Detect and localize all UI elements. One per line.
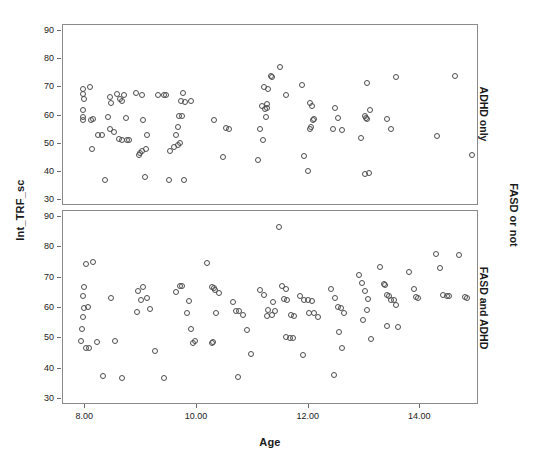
x-tick-label: 12.00 [288, 411, 328, 421]
data-point [257, 126, 263, 132]
data-point [211, 117, 217, 123]
data-point [188, 326, 194, 332]
data-point [395, 324, 401, 330]
data-point [213, 310, 219, 316]
data-point [220, 154, 226, 160]
data-point [339, 345, 345, 351]
data-point [235, 374, 241, 380]
data-point [360, 317, 366, 323]
data-point [305, 168, 311, 174]
data-point [331, 372, 337, 378]
data-point [186, 298, 192, 304]
y-tick-label: 70 [32, 272, 54, 282]
data-point [332, 295, 338, 301]
data-point [87, 84, 93, 90]
data-point [309, 298, 315, 304]
data-point [368, 336, 374, 342]
panel-strip-label-adhd-only: ADHD only [478, 26, 490, 202]
y-tick-label: 30 [32, 194, 54, 204]
y-tick-label: 60 [32, 110, 54, 120]
x-tick-mark [419, 404, 420, 408]
scatter-plot-figure: Int_TRF_sc Age ADHD only FASD and ADHD F… [0, 0, 556, 464]
data-point [364, 307, 370, 313]
data-point [384, 116, 390, 122]
data-point [152, 348, 158, 354]
data-point [166, 177, 172, 183]
x-tick-label: 8.00 [64, 411, 104, 421]
data-point [269, 74, 275, 80]
data-point [330, 126, 336, 132]
data-point [452, 73, 458, 79]
y-tick-label: 50 [32, 138, 54, 148]
y-tick-mark [57, 216, 61, 217]
y-tick-label: 80 [32, 241, 54, 251]
data-point [261, 292, 267, 298]
y-tick-mark [57, 58, 61, 59]
data-point [377, 264, 383, 270]
data-point [89, 146, 95, 152]
data-point [83, 261, 89, 267]
data-point [99, 132, 105, 138]
data-point [356, 272, 362, 278]
x-tick-mark [196, 404, 197, 408]
data-point [382, 282, 388, 288]
y-tick-label: 90 [32, 25, 54, 35]
data-point [364, 116, 370, 122]
data-point [102, 177, 108, 183]
data-point [290, 335, 296, 341]
data-point [433, 251, 439, 257]
data-point [112, 338, 118, 344]
data-point [276, 224, 282, 230]
data-point [119, 375, 125, 381]
data-point [173, 132, 179, 138]
panel-adhd-only [62, 24, 478, 205]
data-point [362, 288, 368, 294]
data-point [134, 309, 140, 315]
data-point [179, 283, 185, 289]
data-point [119, 98, 125, 104]
data-point [469, 152, 475, 158]
y-tick-label: 70 [32, 81, 54, 91]
data-point [263, 114, 269, 120]
data-point [85, 304, 91, 310]
data-point [434, 133, 440, 139]
data-point [335, 115, 341, 121]
data-point [144, 295, 150, 301]
data-point [163, 92, 169, 98]
data-point [79, 326, 85, 332]
data-point [272, 308, 278, 314]
data-point [358, 135, 364, 141]
data-point [142, 174, 148, 180]
data-point [332, 105, 338, 111]
y-tick-mark [57, 398, 61, 399]
data-point [121, 92, 127, 98]
y-tick-mark [57, 171, 61, 172]
data-point [384, 323, 390, 329]
data-point [240, 312, 246, 318]
x-tick-mark [84, 404, 85, 408]
data-point [80, 314, 86, 320]
data-point [291, 313, 297, 319]
data-point [307, 126, 313, 132]
data-point [136, 152, 142, 158]
data-point [359, 280, 365, 286]
data-point [284, 297, 290, 303]
data-point [341, 310, 347, 316]
data-point [265, 86, 271, 92]
y-tick-mark [57, 143, 61, 144]
y-tick-label: 80 [32, 53, 54, 63]
x-axis-title: Age [62, 436, 478, 448]
data-point [365, 296, 371, 302]
data-point [456, 252, 462, 258]
data-point [135, 288, 141, 294]
data-point [144, 132, 150, 138]
data-point [301, 153, 307, 159]
data-point [393, 302, 399, 308]
data-point [310, 117, 316, 123]
data-point [108, 295, 114, 301]
panel-strip-label-fasd-and-adhd: FASD and ADHD [478, 212, 490, 404]
data-point [78, 338, 84, 344]
y-tick-mark [57, 199, 61, 200]
data-point [81, 96, 87, 102]
data-point [230, 299, 236, 305]
